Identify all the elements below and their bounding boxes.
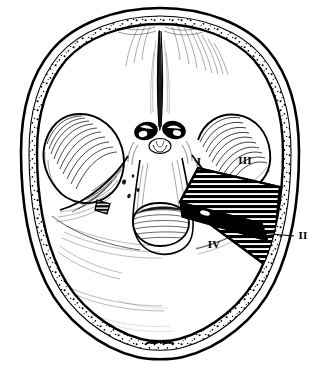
contralateral-hatched-marker [95,200,110,214]
skull-base-drawing: I III II IV [0,0,320,371]
frontal-pole-shading [118,27,203,35]
label-roman-iv: IV [208,238,221,250]
crista-galli-midline [151,30,170,131]
label-roman-iii: III [238,154,251,166]
sella-turcica [149,139,171,154]
optic-canal-right [160,118,188,141]
skull-base-figure: I III II IV [0,0,320,371]
middle-cranial-fossa-left [44,114,124,203]
hatched-exposure-quadrilateral [180,168,280,270]
cranial-interior [44,26,281,332]
label-roman-i: I [197,155,201,167]
label-roman-ii: II [299,229,308,241]
